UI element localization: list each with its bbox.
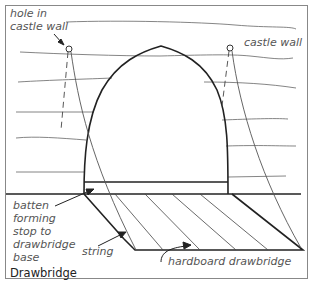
strings — [71, 51, 301, 250]
drawbridge-hatching — [115, 194, 268, 250]
diagram-title: Drawbridge — [10, 266, 77, 280]
hole-left-icon — [66, 46, 72, 52]
hole-right-icon — [227, 45, 233, 51]
label-line: batten — [13, 199, 76, 212]
label-line: castle wall — [10, 20, 68, 33]
label-batten: batten forming stop to drawbridge base — [13, 199, 76, 264]
label-line: stop to — [13, 225, 76, 238]
diagram-frame: hole in castle wall castle wall batten f… — [0, 0, 313, 285]
label-string: string — [82, 245, 114, 258]
label-castle-wall: castle wall — [244, 36, 302, 49]
label-line: drawbridge — [13, 238, 76, 251]
label-hole-in-castle-wall: hole in castle wall — [10, 7, 68, 33]
label-line: hole in — [10, 7, 68, 20]
castle-arch — [84, 46, 228, 194]
label-line: base — [13, 251, 76, 264]
label-hardboard-drawbridge: hardboard drawbridge — [168, 255, 291, 268]
drawbridge-outline — [84, 194, 303, 250]
hidden-string-lines — [61, 51, 229, 130]
label-line: forming — [13, 212, 76, 225]
